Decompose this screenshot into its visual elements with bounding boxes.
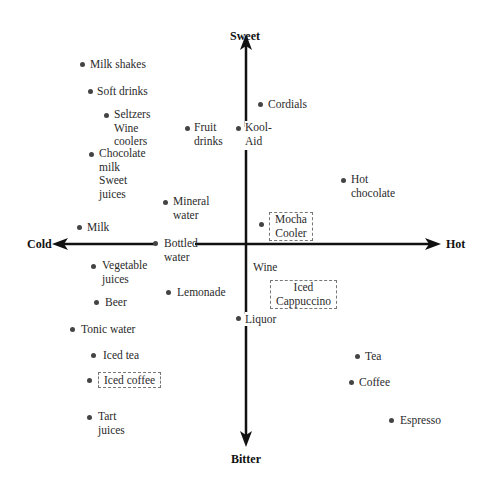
data-point-dot [77,225,82,230]
data-point-dot [341,178,346,183]
item-label: Bottled water [164,237,198,264]
item-label-boxed: Iced Cappuccino [270,280,337,309]
item-label: Coffee [359,375,390,389]
item-label: Milk shakes [90,57,146,71]
item-label: Tea [365,349,381,363]
item-label: Hot chocolate [351,173,395,200]
data-point-dot [166,290,171,295]
item-label: Mineral water [173,195,209,222]
data-point-dot [80,62,85,67]
data-point-dot [89,152,94,157]
item-label: Lemonade [177,285,226,299]
data-point-dot [355,354,360,359]
data-point-dot [91,264,96,269]
item-label: Chocolate milk Sweet juices [99,147,146,201]
data-point-dot [91,353,96,358]
item-label: Cordials [268,97,307,111]
item-label: Wine [253,260,277,274]
data-point-dot [236,316,241,321]
axis-label-sweet: Sweet [230,29,260,43]
item-label-boxed: Mocha Cooler [269,212,313,241]
item-label: Beer [105,295,127,309]
data-point-dot [70,327,75,332]
axis-label-cold: Cold [27,237,52,251]
item-label-boxed: Iced coffee [98,372,161,388]
item-label: Tonic water [81,322,135,336]
data-point-dot [236,126,241,131]
data-point-dot [87,378,92,383]
axes-graphic [0,0,491,479]
axis-label-hot: Hot [446,237,465,251]
item-label: Seltzers Wine coolers [114,108,150,149]
data-point-dot [259,222,264,227]
data-point-dot [94,300,99,305]
item-label: Kool- Aid [245,121,272,148]
item-label: Milk [87,220,109,234]
data-point-dot [104,113,109,118]
data-point-dot [163,200,168,205]
data-point-dot [185,126,190,131]
data-point-dot [349,380,354,385]
item-label: Soft drinks [97,84,148,98]
item-label: Espresso [400,413,441,427]
data-point-dot [389,418,394,423]
item-label: Iced tea [103,348,139,362]
data-point-dot [153,241,158,246]
data-point-dot [258,102,263,107]
item-label: Vegetable juices [102,259,147,286]
perceptual-map: Sweet Bitter Cold Hot Milk shakes Soft d… [0,0,491,479]
item-label: Fruit drinks [194,121,223,148]
item-label: Liquor [245,312,276,326]
axis-label-bitter: Bitter [231,452,261,466]
item-label: Tart juices [98,410,125,437]
data-point-dot [87,415,92,420]
data-point-dot [88,89,93,94]
